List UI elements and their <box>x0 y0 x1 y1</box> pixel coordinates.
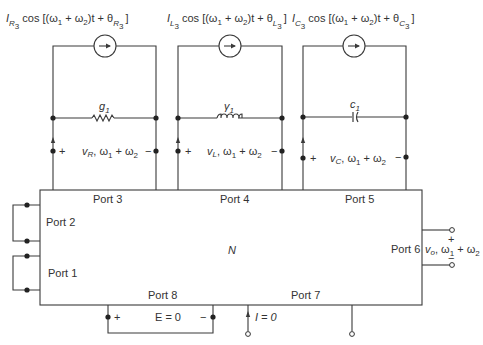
minus-sign: − <box>145 145 151 157</box>
port-2-short <box>13 202 40 243</box>
branch-inductor: IL3cos [(ω1 + ω2)t + θL3] γ1 + − vL, ω1 … <box>167 12 287 190</box>
output-terminal-plus[interactable] <box>450 228 455 233</box>
port-7-terminal-a[interactable] <box>246 332 251 337</box>
plus-sign: + <box>114 311 120 323</box>
minus-sign: − <box>271 145 277 157</box>
i-zero-label: I = 0 <box>255 311 278 323</box>
arrow-up-icon <box>176 137 180 143</box>
arrow-up-icon <box>246 311 250 317</box>
voltage-label-c: vC, ω1 + ω2 <box>330 152 387 167</box>
current-source-icon <box>219 35 241 57</box>
element-label-c1: c1 <box>350 98 360 113</box>
port-3-label: Port 3 <box>93 193 122 205</box>
source-label-l: IL3cos [(ω1 + ω2)t + θL3] <box>167 12 287 31</box>
voltage-label-l: vL, ω1 + ω2 <box>207 145 262 160</box>
port-7-terminal-b[interactable] <box>350 332 355 337</box>
network-label: N <box>228 244 236 256</box>
source-label-c: IC3cos [(ω1 + ω2)t + θC3] <box>292 12 414 31</box>
element-label-gamma1: γ1 <box>224 100 234 115</box>
branch-resistor: IR3cos [(ω1 + ω2)t + θR3] g1 + − vR, ω1 … <box>6 12 159 190</box>
port-1-label: Port 1 <box>48 267 77 279</box>
output-voltage-label: vo, ω1 + ω2 <box>425 243 480 258</box>
port-1-short <box>13 253 40 292</box>
minus-sign: − <box>200 311 206 323</box>
plus-sign: + <box>310 152 316 164</box>
port-8-source: + − E = 0 <box>105 305 215 333</box>
element-label-g1: g1 <box>99 100 110 115</box>
port-7-open: I = 0 <box>246 305 355 336</box>
port-7-label: Port 7 <box>291 289 320 301</box>
current-source-icon <box>94 35 116 57</box>
port-5-label: Port 5 <box>345 193 374 205</box>
wire <box>365 46 406 190</box>
port-2-label: Port 2 <box>46 216 75 228</box>
circuit-diagram: IR3cos [(ω1 + ω2)t + θR3] g1 + − vR, ω1 … <box>0 0 483 345</box>
wire <box>303 46 343 190</box>
plus-sign: + <box>59 145 65 157</box>
port-4-label: Port 4 <box>220 193 249 205</box>
arrow-up-icon <box>51 137 55 143</box>
resistor-icon <box>92 115 114 121</box>
branch-capacitor: IC3cos [(ω1 + ω2)t + θC3] c1 + − vC, ω1 … <box>292 12 414 190</box>
plus-sign: + <box>185 145 191 157</box>
arrow-up-icon <box>301 137 305 143</box>
voltage-label-r: vR, ω1 + ω2 <box>82 145 139 160</box>
current-source-icon <box>343 35 365 57</box>
source-label-r: IR3cos [(ω1 + ω2)t + θR3] <box>6 12 128 31</box>
port-8-label: Port 8 <box>148 289 177 301</box>
minus-sign: − <box>395 151 401 163</box>
port-6-label: Port 6 <box>391 243 420 255</box>
e-zero-label: E = 0 <box>155 311 181 323</box>
